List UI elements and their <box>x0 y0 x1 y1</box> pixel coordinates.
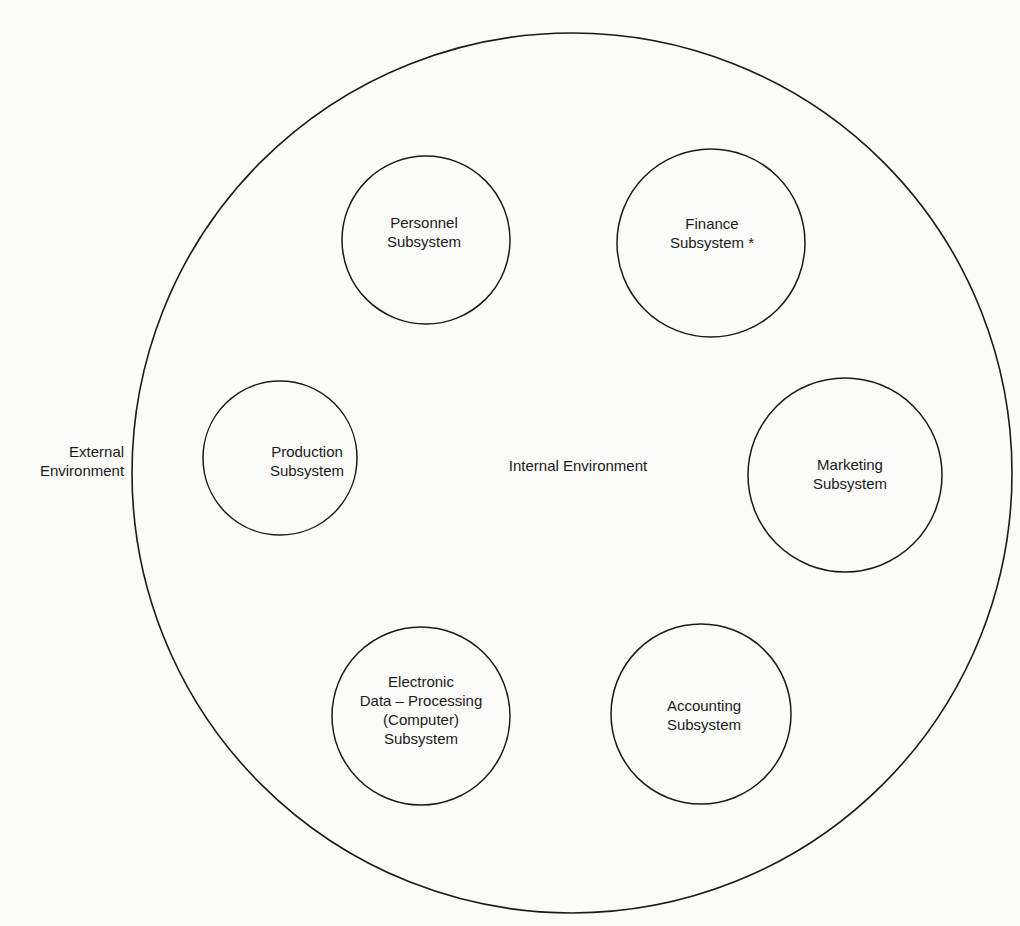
accounting-subsystem-label: Accounting Subsystem <box>667 696 741 734</box>
accounting-line-2: Subsystem <box>667 715 741 734</box>
production-line-2: Subsystem <box>270 461 344 480</box>
finance-line-1: Finance <box>670 214 754 233</box>
personnel-line-1: Personnel <box>387 213 461 232</box>
external-environment-label: External Environment <box>40 442 124 480</box>
marketing-line-2: Subsystem <box>813 474 887 493</box>
edp-line-1: Electronic <box>360 672 483 691</box>
marketing-line-1: Marketing <box>813 455 887 474</box>
internal-environment-label: Internal Environment <box>509 456 647 475</box>
personnel-line-2: Subsystem <box>387 232 461 251</box>
finance-line-2: Subsystem * <box>670 233 754 252</box>
production-line-1: Production <box>270 442 344 461</box>
accounting-line-1: Accounting <box>667 696 741 715</box>
edp-line-3: (Computer) <box>360 710 483 729</box>
edp-line-4: Subsystem <box>360 729 483 748</box>
finance-subsystem-label: Finance Subsystem * <box>670 214 754 252</box>
marketing-subsystem-label: Marketing Subsystem <box>813 455 887 493</box>
production-subsystem-label: Production Subsystem <box>270 442 344 480</box>
edp-subsystem-label: Electronic Data – Processing (Computer) … <box>360 672 483 748</box>
internal-line: Internal Environment <box>509 456 647 475</box>
external-line-1: External <box>40 442 124 461</box>
edp-line-2: Data – Processing <box>360 691 483 710</box>
personnel-subsystem-label: Personnel Subsystem <box>387 213 461 251</box>
external-line-2: Environment <box>40 461 124 480</box>
